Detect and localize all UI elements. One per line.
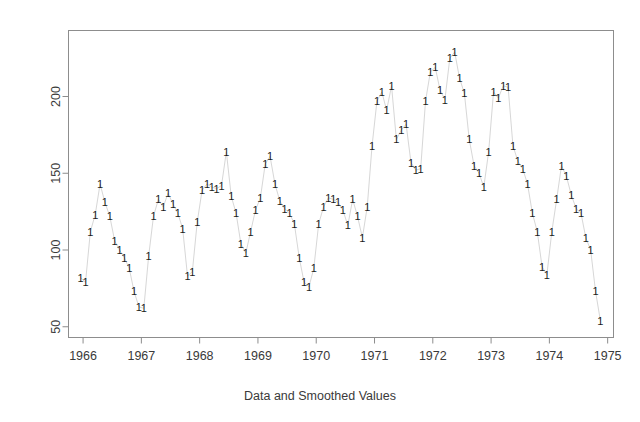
smoothed-values-path bbox=[81, 52, 601, 321]
x-axis-ticks: 1966196719681969197019711972197319741975 bbox=[69, 338, 621, 363]
data-point-marker: 1 bbox=[578, 207, 584, 219]
data-point-marker: 1 bbox=[248, 226, 254, 238]
data-point-marker: 1 bbox=[306, 281, 312, 293]
data-point-marker: 1 bbox=[311, 262, 317, 274]
data-point-marker: 1 bbox=[175, 207, 181, 219]
data-point-marker: 1 bbox=[92, 209, 98, 221]
data-point-marker: 1 bbox=[442, 94, 448, 106]
data-point-marker: 1 bbox=[461, 87, 467, 99]
y-tick-label: 200 bbox=[50, 86, 64, 107]
data-point-marker: 1 bbox=[452, 46, 458, 58]
data-point-marker: 1 bbox=[146, 250, 152, 262]
x-tick-label: 1972 bbox=[419, 349, 447, 363]
data-point-marker: 1 bbox=[350, 193, 356, 205]
x-tick-label: 1973 bbox=[477, 349, 505, 363]
data-point-marker: 1 bbox=[422, 95, 428, 107]
data-point-marker: 1 bbox=[549, 226, 555, 238]
x-tick-label: 1967 bbox=[127, 349, 155, 363]
data-point-marker: 1 bbox=[520, 163, 526, 175]
data-point-marker: 1 bbox=[354, 210, 360, 222]
data-point-marker: 1 bbox=[296, 252, 302, 264]
data-point-marker: 1 bbox=[223, 146, 229, 158]
data-point-marker: 1 bbox=[388, 80, 394, 92]
data-point-marker: 1 bbox=[218, 180, 224, 192]
data-point-marker: 1 bbox=[194, 216, 200, 228]
data-point-markers: 1111111111111111111111111111111111111111… bbox=[78, 46, 604, 327]
data-point-marker: 1 bbox=[141, 302, 147, 314]
x-tick-label: 1970 bbox=[302, 349, 330, 363]
data-point-marker: 1 bbox=[481, 181, 487, 193]
plot-frame bbox=[69, 31, 614, 338]
x-tick-label: 1966 bbox=[69, 349, 97, 363]
data-point-marker: 1 bbox=[316, 218, 322, 230]
data-point-marker: 1 bbox=[432, 61, 438, 73]
data-point-marker: 1 bbox=[243, 247, 249, 259]
data-point-marker: 1 bbox=[524, 178, 530, 190]
data-point-marker: 1 bbox=[495, 92, 501, 104]
time-series-plot: 1111111111111111111111111111111111111111… bbox=[0, 0, 640, 422]
data-point-marker: 1 bbox=[107, 210, 113, 222]
data-point-marker: 1 bbox=[568, 189, 574, 201]
data-point-marker: 1 bbox=[364, 201, 370, 213]
data-point-marker: 1 bbox=[456, 72, 462, 84]
x-tick-label: 1974 bbox=[535, 349, 563, 363]
x-tick-label: 1975 bbox=[594, 349, 622, 363]
data-point-marker: 1 bbox=[359, 232, 365, 244]
data-point-marker: 1 bbox=[529, 207, 535, 219]
data-point-marker: 1 bbox=[180, 223, 186, 235]
y-axis-ticks: 50100150200 bbox=[50, 86, 69, 334]
data-point-marker: 1 bbox=[150, 210, 156, 222]
data-point-marker: 1 bbox=[466, 133, 472, 145]
data-point-marker: 1 bbox=[228, 190, 234, 202]
x-tick-label: 1969 bbox=[244, 349, 272, 363]
data-point-marker: 1 bbox=[534, 226, 540, 238]
data-point-marker: 1 bbox=[97, 178, 103, 190]
data-point-marker: 1 bbox=[160, 201, 166, 213]
data-point-marker: 1 bbox=[82, 276, 88, 288]
data-point-marker: 1 bbox=[102, 196, 108, 208]
y-tick-label: 50 bbox=[50, 320, 64, 334]
data-point-marker: 1 bbox=[588, 244, 594, 256]
y-tick-label: 150 bbox=[50, 163, 64, 184]
data-point-marker: 1 bbox=[505, 81, 511, 93]
data-point-marker: 1 bbox=[563, 170, 569, 182]
smoothed-line bbox=[81, 52, 601, 321]
data-point-marker: 1 bbox=[476, 167, 482, 179]
data-point-marker: 1 bbox=[510, 140, 516, 152]
data-point-marker: 1 bbox=[544, 269, 550, 281]
x-tick-label: 1968 bbox=[186, 349, 214, 363]
data-point-marker: 1 bbox=[189, 266, 195, 278]
data-point-marker: 1 bbox=[384, 104, 390, 116]
data-point-marker: 1 bbox=[233, 207, 239, 219]
data-point-marker: 1 bbox=[592, 285, 598, 297]
x-axis-caption: Data and Smoothed Values bbox=[244, 389, 396, 403]
data-point-marker: 1 bbox=[252, 204, 258, 216]
data-point-marker: 1 bbox=[369, 140, 375, 152]
data-point-marker: 1 bbox=[418, 163, 424, 175]
data-point-marker: 1 bbox=[257, 192, 263, 204]
data-point-marker: 1 bbox=[403, 118, 409, 130]
data-point-marker: 1 bbox=[345, 219, 351, 231]
data-point-marker: 1 bbox=[379, 86, 385, 98]
data-point-marker: 1 bbox=[272, 178, 278, 190]
data-point-marker: 1 bbox=[131, 285, 137, 297]
x-tick-label: 1971 bbox=[361, 349, 389, 363]
chart-figure: 1111111111111111111111111111111111111111… bbox=[0, 0, 640, 422]
data-point-marker: 1 bbox=[554, 193, 560, 205]
data-point-marker: 1 bbox=[340, 204, 346, 216]
data-point-marker: 1 bbox=[267, 150, 273, 162]
data-point-marker: 1 bbox=[597, 315, 603, 327]
data-point-marker: 1 bbox=[486, 146, 492, 158]
data-point-marker: 1 bbox=[126, 262, 132, 274]
data-point-marker: 1 bbox=[291, 218, 297, 230]
data-point-marker: 1 bbox=[87, 226, 93, 238]
data-point-marker: 1 bbox=[583, 232, 589, 244]
y-tick-label: 100 bbox=[50, 240, 64, 261]
